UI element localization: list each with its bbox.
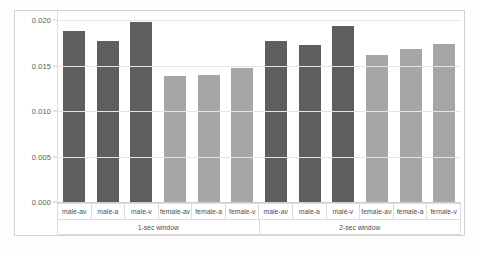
bar-female-a [198,75,220,202]
bar-male-v [332,26,354,202]
x-axis-category-label: female-v [225,203,259,220]
chart-body: 0.0200.0150.0100.0050.000 male-avmale-am… [15,11,464,235]
bar-male-a [299,45,321,202]
x-axis-category-row: male-avmale-amale-vfemale-avfemale-afema… [57,203,461,220]
x-axis-category-label: male-a [292,203,326,220]
chart-plot-frame: 0.0200.0150.0100.0050.000 male-avmale-am… [14,10,465,236]
y-axis-tick-label: 0.005 [32,152,51,161]
x-axis-category-label: female-a [191,203,225,220]
x-axis-category-label: female-a [393,203,427,220]
gridline [57,66,461,67]
gridline [57,20,461,21]
x-axis-category-label: female-av [359,203,393,220]
bar-female-v [433,44,455,202]
y-axis-tick-label: 0.010 [32,107,51,116]
x-axis-group-label: 1-sec window [57,220,259,235]
x-axis-category-label: male-v [124,203,158,220]
x-axis-category-label: male-av [258,203,292,220]
x-axis: male-avmale-amale-vfemale-avfemale-afema… [57,203,461,235]
x-axis-category-label: male-v [326,203,360,220]
x-axis-category-label: male-av [57,203,91,220]
y-axis-tick-label: 0.020 [32,16,51,25]
gridline [57,111,461,112]
y-axis-tick-label: 0.015 [32,61,51,70]
bar-female-a [400,49,422,202]
x-axis-category-label: male-a [91,203,125,220]
plot-area [57,11,461,203]
bar-female-av [366,55,388,202]
bar-female-av [164,76,186,202]
x-axis-category-label: female-av [158,203,192,220]
gridline [57,157,461,158]
bar-series [57,11,461,203]
y-axis: 0.0200.0150.0100.0050.000 [15,11,57,203]
x-axis-group-row: 1-sec window2-sec window [57,220,461,235]
x-axis-category-label: female-v [426,203,461,220]
bar-male-av [63,31,85,202]
y-axis-tick-label: 0.000 [32,198,51,207]
bar-female-v [231,68,253,202]
bar-chart: 0.0200.0150.0100.0050.000 male-avmale-am… [0,0,479,254]
x-axis-group-label: 2-sec window [259,220,462,235]
